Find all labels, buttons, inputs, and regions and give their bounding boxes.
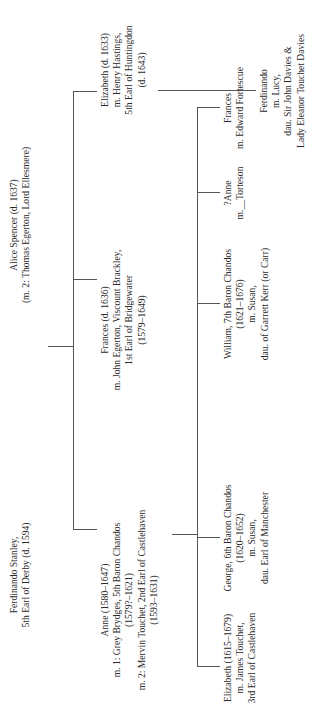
node-line: m.__Torteson (234, 167, 246, 220)
node-line: Lady Eleanor Touchet Davies (295, 34, 307, 148)
node-anne-torteson: ?Anne m.__Torteson (222, 167, 246, 220)
node-line: Ferdinando (258, 34, 270, 148)
node-line: 5th Earl of Derby (d. 1594) (20, 523, 32, 628)
tick-anne-q (197, 192, 220, 193)
anne-stem-line (172, 534, 197, 535)
node-line: (m. 2: Thomas Egerton, Lord Ellesmere) (20, 147, 32, 303)
tick-frances-fortescue (197, 107, 220, 108)
node-anne: Anne (1580–1647) m. 1: Grey Brydges, 5th… (99, 510, 160, 691)
node-line: (1593–1631) (148, 510, 160, 691)
node-line: (1620–1652) (234, 485, 246, 592)
node-george: George, 6th Baron Chandos (1620–1652) m.… (222, 485, 271, 592)
node-line: dau. of Garrett Kerr (or Carr) (259, 248, 271, 360)
tick-elizabeth-touchet (197, 666, 220, 667)
node-elizabeth-touchet: Elizabeth (1615–1679) m. James Touchet, … (222, 613, 259, 704)
node-frances-fortescue: Frances m. Edward Fortescue (222, 67, 246, 149)
node-line: Ferdinando Stanley, (8, 523, 20, 628)
gen1-bus-line (73, 91, 74, 530)
node-line: Elizabeth (1615–1679) (222, 613, 234, 704)
node-elizabeth: Elizabeth (d. 1633) m. Henry Hastings, 5… (99, 25, 148, 114)
node-line: (1579?–1621) (123, 510, 135, 691)
node-line: William, 7th Baron Chandos (222, 248, 234, 360)
tick-george (197, 537, 220, 538)
node-ferdinando-hastings: Ferdinando m. Lucy, dau. Sir John Davies… (258, 34, 307, 148)
root-stem-line (48, 346, 73, 347)
node-line: m. John Egerton, Viscount Brackley, (111, 250, 123, 391)
node-line: 3rd Earl of Castlehaven (246, 613, 258, 704)
node-line: George, 6th Baron Chandos (222, 485, 234, 592)
node-line: m. James Touchet, (234, 613, 246, 704)
tick-elizabeth (73, 91, 97, 92)
gen2-bus-line (197, 107, 198, 667)
node-ferdinando-stanley: Ferdinando Stanley, 5th Earl of Derby (d… (8, 523, 32, 628)
node-william: William, 7th Baron Chandos (1621–1676) m… (222, 248, 271, 360)
node-line: m. Susan, (246, 485, 258, 592)
node-line: m. Henry Hastings, (111, 25, 123, 114)
tick-william (197, 303, 220, 304)
node-line: m. Edward Fortescue (234, 67, 246, 149)
node-line: m. 1: Grey Brydges, 5th Baron Chandos (111, 510, 123, 691)
node-line: Elizabeth (d. 1633) (99, 25, 111, 114)
node-line: (d. 1643) (136, 25, 148, 114)
node-frances: Frances (d. 1636) m. John Egerton, Visco… (99, 250, 148, 391)
node-line: Frances (d. 1636) (99, 250, 111, 391)
node-line: dau. Earl of Manchester (259, 485, 271, 592)
node-line: (1579–1649) (136, 250, 148, 391)
node-line: m. Lucy, (270, 34, 282, 148)
node-line: dau. Sir John Davies & (282, 34, 294, 148)
node-line: (1621–1676) (234, 248, 246, 360)
node-line: Anne (1580–1647) (99, 510, 111, 691)
node-alice-spencer: Alice Spencer (d. 1637) (m. 2: Thomas Eg… (8, 147, 32, 303)
node-line: ?Anne (222, 167, 234, 220)
node-line: Frances (222, 67, 234, 149)
node-line: m. Susan, (246, 248, 258, 360)
family-tree-diagram: Ferdinando Stanley, 5th Earl of Derby (d… (0, 0, 328, 720)
node-line: Alice Spencer (d. 1637) (8, 147, 20, 303)
tick-anne (73, 529, 97, 530)
node-line: 1st Earl of Bridgewater (123, 250, 135, 391)
node-line: 5th Earl of Huntingdon (123, 25, 135, 114)
tick-frances (73, 279, 97, 280)
node-line: m. 2: Mervin Touchet, 2nd Earl of Castle… (136, 510, 148, 691)
